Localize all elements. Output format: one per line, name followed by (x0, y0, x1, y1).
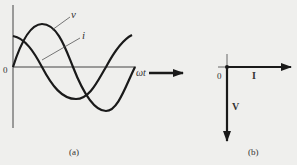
v-leader-line (52, 17, 70, 30)
phasor-i-label: I (252, 70, 256, 81)
caption-b: (b) (248, 147, 259, 157)
origin-label-a: 0 (3, 65, 8, 75)
caption-a: (a) (69, 147, 79, 157)
x-axis-label: ωt (136, 67, 146, 78)
curve-i-label: i (82, 29, 85, 41)
curve-v-label: v (71, 8, 76, 20)
origin-label-b: 0 (217, 71, 222, 81)
phasor-diagram: v i 0 ωt (a) 0 I V (b) (0, 0, 297, 165)
diagram-canvas: v i 0 ωt (a) 0 I V (b) (0, 0, 297, 165)
panel-a-waveforms: v i 0 ωt (a) (3, 5, 183, 157)
phasor-v-label: V (232, 101, 240, 112)
panel-b-phasors: 0 I V (b) (217, 54, 291, 157)
origin-dot (225, 65, 229, 69)
